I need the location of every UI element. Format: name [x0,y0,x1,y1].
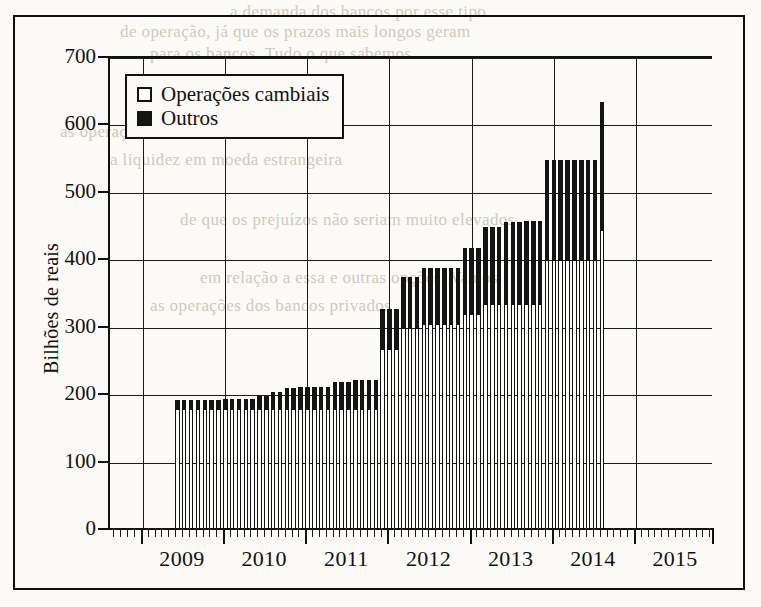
bar-segment-operacoes-cambiais [250,409,255,530]
bar-stack [367,58,372,530]
bar-segment-outros [291,388,296,408]
bar-segment-outros [182,400,187,409]
bar-segment-operacoes-cambiais [312,409,317,530]
bar-segment-operacoes-cambiais [401,328,406,530]
bar-segment-outros [196,400,201,409]
bar-segment-outros [531,221,536,304]
bar-segment-outros [209,400,214,409]
bar-segment-outros [504,222,509,304]
bar-segment-outros [374,380,379,408]
bar-stack [586,58,591,530]
bar-segment-operacoes-cambiais [463,314,468,530]
bar-segment-outros [497,227,502,305]
bar-segment-outros [257,396,262,408]
x-tick-minor [682,528,683,537]
bar-segment-outros [517,222,522,304]
bar-stack [572,58,577,530]
bar-segment-operacoes-cambiais [517,304,522,530]
plot-wrapper: Bilhões de reais 0100200300400500600700 … [0,0,761,607]
x-tick-minor [648,528,649,537]
bar-segment-outros [216,400,221,409]
x-tick-minor [689,528,690,537]
bar-segment-operacoes-cambiais [244,409,249,530]
bar-segment-operacoes-cambiais [216,409,221,530]
x-tick-minor [531,528,532,537]
bar-segment-outros [353,380,358,408]
bar-segment-operacoes-cambiais [586,260,591,530]
x-tick-major [470,528,472,544]
chart-legend: Operações cambiaisOutros [125,74,344,139]
bar-segment-operacoes-cambiais [298,409,303,530]
bar-segment-operacoes-cambiais [422,324,427,530]
bar-stack [374,58,379,530]
bar-segment-operacoes-cambiais [237,409,242,530]
legend-item: Outros [137,107,330,130]
x-tick-minor [422,528,423,537]
x-tick-minor [394,528,395,537]
x-tick-label: 2013 [488,546,533,572]
x-tick-minor [353,528,354,537]
bar-segment-outros [435,268,440,324]
x-tick-major [387,528,389,544]
bar-stack [476,58,481,530]
bar-stack [545,58,550,530]
bar-stack [428,58,433,530]
bar-segment-operacoes-cambiais [545,260,550,530]
x-tick-minor [127,528,128,537]
legend-label: Outros [161,107,218,130]
bar-segment-outros [203,400,208,409]
bar-segment-outros [230,399,235,409]
bar-segment-operacoes-cambiais [203,409,208,530]
bar-segment-outros [415,277,420,328]
bar-segment-operacoes-cambiais [442,324,447,530]
bar-segment-outros [380,309,385,349]
bar-segment-operacoes-cambiais [428,324,433,530]
bar-segment-outros [223,399,228,409]
x-tick-minor [367,528,368,537]
bar-segment-outros [264,396,269,408]
bar-segment-operacoes-cambiais [387,349,392,530]
bar-segment-operacoes-cambiais [538,304,543,530]
x-tick-major [634,528,636,544]
bar-segment-operacoes-cambiais [504,304,509,530]
y-tick-label: 500 [50,178,96,203]
x-tick-minor [113,528,114,537]
bar-segment-outros [244,399,249,409]
bar-segment-outros [278,392,283,409]
x-tick-minor [292,528,293,537]
bar-stack [511,58,516,530]
y-tick-label: 600 [50,111,96,136]
bar-segment-outros [326,387,331,409]
x-tick-minor [607,528,608,537]
x-tick-minor [244,528,245,537]
bar-segment-operacoes-cambiais [374,409,379,530]
bar-stack [415,58,420,530]
x-tick-minor [476,528,477,537]
bar-segment-operacoes-cambiais [456,324,461,530]
x-tick-minor [319,528,320,537]
bar-segment-outros [271,392,276,409]
bar-stack [408,58,413,530]
bar-stack [422,58,427,530]
x-tick-minor [627,528,628,537]
bar-stack [504,58,509,530]
bar-stack [517,58,522,530]
legend-label: Operações cambiais [161,83,330,106]
x-tick-minor [497,528,498,537]
x-tick-minor [442,528,443,537]
bar-segment-outros [339,382,344,409]
x-tick-label: 2014 [570,546,615,572]
x-tick-minor [702,528,703,537]
x-tick-minor [271,528,272,537]
x-tick-minor [675,528,676,537]
x-tick-minor [285,528,286,537]
bar-segment-operacoes-cambiais [531,304,536,530]
x-tick-minor [572,528,573,537]
bar-segment-outros [367,380,372,408]
x-tick-minor [203,528,204,537]
bar-segment-operacoes-cambiais [497,304,502,530]
bar-segment-outros [237,399,242,409]
x-tick-label: 2015 [652,546,697,572]
x-tick-minor [463,528,464,537]
bar-stack [380,58,385,530]
